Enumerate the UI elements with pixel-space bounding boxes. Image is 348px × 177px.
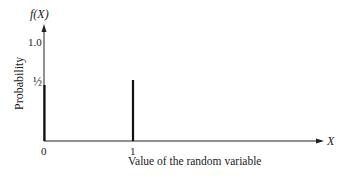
y-axis-title: Probability <box>12 57 27 110</box>
x-axis-arrow-icon <box>316 139 324 144</box>
y-axis-name: f(X) <box>30 7 49 22</box>
x-tick-0: 0 <box>41 145 47 157</box>
y-tick-1: 1.0 <box>28 36 42 48</box>
y-axis-arrow-icon <box>42 24 47 32</box>
x-axis-title: Value of the random variable <box>128 155 261 167</box>
y-tick-half: ½ <box>33 75 42 90</box>
x-axis-name: X <box>327 134 334 149</box>
plot-area <box>0 0 348 177</box>
